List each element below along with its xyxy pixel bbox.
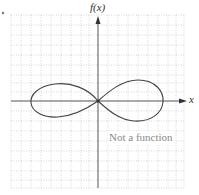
graph: [0, 0, 199, 195]
axes: [11, 22, 180, 188]
y-axis-label: f(x): [90, 1, 105, 13]
y-axis-arrow-icon: [96, 16, 101, 24]
bullet-dot: [2, 12, 4, 14]
x-axis-arrow-icon: [179, 99, 187, 104]
x-axis-label: x: [189, 93, 194, 105]
annotation-not-a-function: Not a function: [108, 131, 174, 144]
origin-point: [96, 99, 99, 102]
